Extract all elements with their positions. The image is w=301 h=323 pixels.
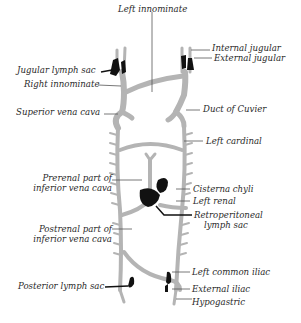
cisterna-chyli-sac — [156, 178, 168, 193]
right-cardinal-vein — [117, 128, 121, 290]
label-prerenal-line2: inferior vena cava — [20, 183, 112, 193]
label-duct-of-cuvier: Duct of Cuvier — [203, 104, 266, 114]
cross-anastomosis — [120, 144, 182, 150]
label-posterior-lymph-sac: Posterior lymph sac — [18, 281, 104, 291]
label-hypogastric: Hypogastric — [192, 297, 245, 307]
label-superior-vena-cava: Superior vena cava — [16, 107, 100, 117]
label-postrenal-line2: inferior vena cava — [20, 234, 112, 244]
label-left-cardinal: Left cardinal — [206, 136, 262, 146]
label-right-innominate: Right innominate — [24, 79, 100, 89]
label-external-jugular: External jugular — [214, 53, 285, 63]
label-external-iliac: External iliac — [192, 284, 250, 294]
label-retroperitoneal-line2: lymph sac — [204, 220, 248, 230]
label-left-innominate: Left innominate — [118, 4, 187, 14]
posterior-lymph-sac-right — [166, 272, 171, 284]
label-internal-jugular: Internal jugular — [212, 43, 281, 53]
label-cisterna-chyli: Cisterna chyli — [193, 184, 253, 194]
label-postrenal-line1: Postrenal part of — [20, 224, 112, 234]
posterior-lymph-sac-left — [128, 277, 134, 288]
label-prerenal-line1: Prerenal part of — [30, 173, 112, 183]
label-retroperitoneal-line1: Retroperitoneal — [194, 210, 263, 220]
label-left-renal: Left renal — [193, 196, 236, 206]
left-innominate-vein — [126, 76, 183, 92]
label-jugular-lymph-sac: Jugular lymph sac — [17, 65, 96, 75]
label-left-common-iliac: Left common iliac — [192, 267, 270, 277]
diagram-canvas: Left innominate Internal jugular Externa… — [0, 0, 301, 323]
